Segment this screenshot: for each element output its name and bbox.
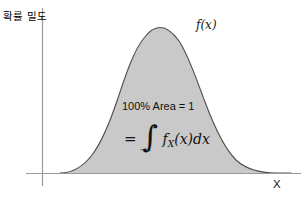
curve-function-label: f(x) bbox=[196, 18, 217, 32]
probability-density-figure: 확률 밀도 f(x) 100% Area = 1 = ∫ ∞ −∞ fX(x)d… bbox=[0, 0, 308, 202]
x-axis-title: X bbox=[273, 178, 281, 190]
area-annotation: 100% Area = 1 bbox=[122, 100, 194, 112]
integral-symbol-group: ∫ ∞ −∞ bbox=[140, 123, 162, 155]
equals-sign: = bbox=[124, 132, 137, 147]
integral-lower-limit: −∞ bbox=[140, 146, 152, 154]
y-axis-title: 확률 밀도 bbox=[3, 8, 47, 23]
integral-upper-limit: ∞ bbox=[152, 123, 158, 131]
integrand-differential: (x)dx bbox=[174, 131, 210, 147]
integrand-expression: fX(x)dx bbox=[163, 132, 210, 149]
integral-formula: = ∫ ∞ −∞ fX(x)dx bbox=[124, 123, 210, 155]
